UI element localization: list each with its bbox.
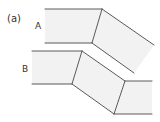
shape-b-label: B xyxy=(22,64,28,74)
panel-label: (a) xyxy=(7,13,21,24)
diagram-canvas: (a) A B xyxy=(0,0,160,122)
shape-a-segment-2 xyxy=(92,9,154,73)
shape-a-label: A xyxy=(35,21,42,31)
